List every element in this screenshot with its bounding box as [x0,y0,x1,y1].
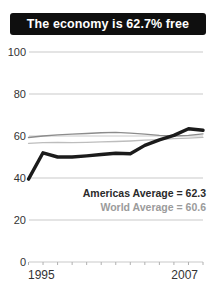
y-axis-label-80: 80 [0,86,26,102]
americas-average-label: Americas Average = 62.3 [46,187,206,200]
y-axis-label-60: 60 [0,128,26,144]
world-average-label: World Average = 60.6 [46,201,206,214]
economic-freedom-card: The economy is 62.7% free 100 80 60 40 2… [0,0,212,305]
y-axis-label-0: 0 [0,254,26,270]
y-axis-label-40: 40 [0,170,26,186]
y-axis-label-100: 100 [0,44,26,60]
trend-chart [0,0,212,305]
x-axis-label-1995: 1995 [28,268,55,282]
x-axis-label-2007: 2007 [171,268,198,282]
world-average-line [29,137,204,143]
y-axis-label-20: 20 [0,212,26,228]
